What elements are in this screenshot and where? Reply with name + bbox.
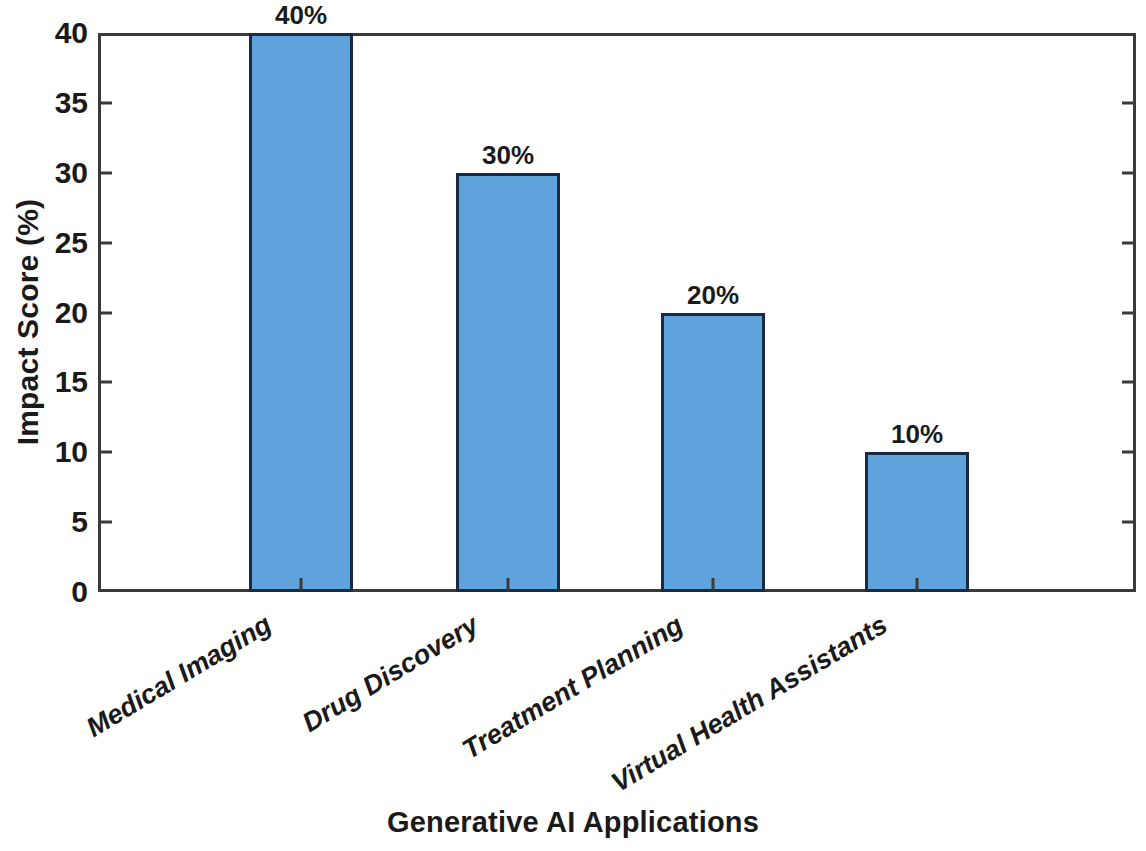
y-axis-tick-mark-right [1122, 101, 1136, 104]
y-axis-tick-label: 25 [8, 228, 88, 258]
y-axis-tick-mark [98, 381, 112, 384]
x-axis-title: Generative AI Applications [0, 806, 1146, 839]
y-axis-tick-mark-right [1122, 241, 1136, 244]
y-axis-tick-label: 30 [8, 158, 88, 188]
x-axis-category-label: Medical Imaging [81, 609, 277, 744]
y-axis-tick-mark-right [1122, 311, 1136, 314]
y-axis-tick-label: 20 [8, 298, 88, 328]
y-axis-tick-mark [98, 241, 112, 244]
bar-value-label: 30% [482, 140, 534, 171]
y-axis-tick-mark [98, 521, 112, 524]
y-axis-tick-mark-right [1122, 171, 1136, 174]
bar[interactable] [456, 173, 560, 592]
y-axis-tick-mark [98, 101, 112, 104]
bar-value-label: 40% [275, 0, 327, 31]
x-axis-tick-mark [300, 578, 303, 591]
y-axis-tick-label: 5 [8, 507, 88, 537]
bar-value-label: 10% [891, 419, 943, 450]
x-axis-tick-mark [507, 578, 510, 591]
y-axis-tick-label: 10 [8, 437, 88, 467]
bar-chart-figure: Impact Score (%) 0510152025303540 40%30%… [0, 0, 1146, 851]
y-axis-tick-label: 15 [8, 367, 88, 397]
bar[interactable] [865, 452, 969, 592]
y-axis-tick-mark-right [1122, 521, 1136, 524]
y-axis-tick-label: 0 [8, 577, 88, 607]
y-axis-tick-mark [98, 311, 112, 314]
y-axis-tick-label: 40 [8, 18, 88, 48]
y-axis-tick-mark-right [1122, 451, 1136, 454]
bar-value-label: 20% [687, 280, 739, 311]
y-axis-tick-mark [98, 451, 112, 454]
y-axis-tick-mark [98, 171, 112, 174]
bar[interactable] [661, 313, 765, 593]
x-axis-tick-mark [712, 578, 715, 591]
y-axis-tick-mark-right [1122, 381, 1136, 384]
x-axis-category-label: Drug Discovery [297, 609, 484, 738]
x-axis-tick-mark [916, 578, 919, 591]
bar[interactable] [249, 33, 353, 592]
y-axis-tick-label: 35 [8, 88, 88, 118]
